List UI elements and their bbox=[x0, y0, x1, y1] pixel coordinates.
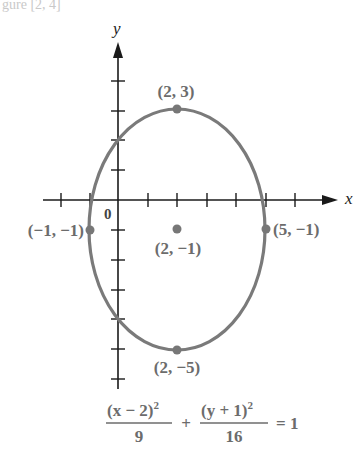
point-center bbox=[173, 225, 182, 234]
ellipse-equation: (x − 2)2 9 + (y + 1)2 16 = 1 bbox=[106, 399, 298, 446]
point-bottom-vertex bbox=[173, 346, 182, 355]
origin-label: 0 bbox=[104, 206, 112, 222]
label-bottom-vertex: (2, −5) bbox=[154, 358, 201, 377]
label-right-co-vertex: (5, −1) bbox=[273, 220, 320, 239]
y-axis-label: y bbox=[111, 19, 121, 38]
y-axis-arrow-icon bbox=[113, 42, 123, 58]
x-axis-arrow-icon bbox=[322, 195, 338, 205]
label-left-co-vertex: (−1, −1) bbox=[28, 221, 84, 240]
point-top-vertex bbox=[173, 105, 182, 114]
top-caption-fragment: gure [2, 4] bbox=[2, 0, 61, 12]
ellipse-figure: gure [2, 4] x y 0 (2, bbox=[0, 0, 358, 462]
point-right-co-vertex bbox=[262, 225, 271, 234]
label-center: (2, −1) bbox=[155, 239, 202, 258]
eq-term2-numerator: (y + 1)2 bbox=[201, 399, 254, 420]
eq-plus: + bbox=[181, 414, 191, 433]
eq-term1-numerator: (x − 2)2 bbox=[107, 399, 160, 420]
y-axis: y bbox=[111, 19, 125, 389]
point-left-co-vertex bbox=[86, 226, 95, 235]
eq-rhs: = 1 bbox=[276, 414, 298, 433]
x-axis-label: x bbox=[344, 189, 353, 208]
eq-term1-denominator: 9 bbox=[135, 427, 144, 446]
label-top-vertex: (2, 3) bbox=[158, 82, 195, 101]
eq-term2-denominator: 16 bbox=[226, 427, 243, 446]
